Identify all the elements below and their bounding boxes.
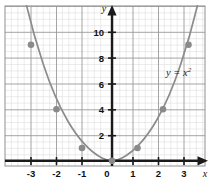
data-point [79,145,86,152]
data-point [28,41,35,48]
parabola-graph-figure: 2 4 8 6 10 -3 -2 -1 0 1 2 3 y x y = x2 [0,0,217,184]
x-tick-label: -3 [27,168,35,179]
data-point [53,106,60,113]
x-tick-label-origin: 0 [104,168,109,179]
data-point [134,145,141,152]
y-tick-label: 8 [99,53,104,64]
x-tick-label: 1 [130,168,136,179]
equation-exponent: 2 [188,66,192,74]
x-tick-label: -2 [52,168,60,179]
y-tick-label: 10 [93,27,104,38]
x-tick-label: -1 [78,168,87,179]
equation-base: y = x [165,67,188,78]
y-tick-label: 2 [99,130,104,141]
coordinate-plane-svg: 2 4 8 6 10 -3 -2 -1 0 1 2 3 y x y = x2 [0,0,217,184]
data-point [185,41,192,48]
x-axis-label: x [202,168,208,179]
x-tick-label: 3 [181,168,186,179]
data-point [160,106,167,113]
y-tick-label: 4 [99,104,105,115]
data-point [109,158,116,165]
x-tick-label: 2 [156,168,161,179]
y-axis-label: y [101,3,107,14]
y-tick-label: 6 [99,79,104,90]
x-tick-labels: -3 -2 -1 0 1 2 3 [27,168,187,179]
